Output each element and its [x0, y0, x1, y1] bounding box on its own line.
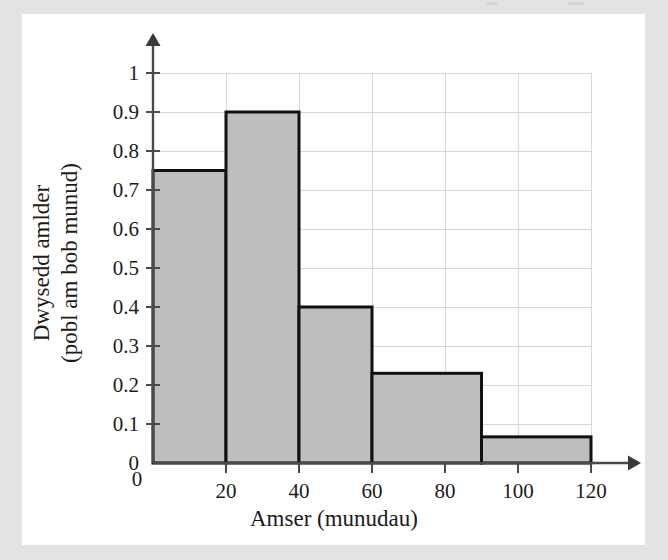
histogram-bar [226, 112, 299, 463]
y-tick-label: 1 [57, 63, 139, 84]
x-axis-arrow-icon [628, 456, 641, 471]
x-tick-label: 100 [502, 481, 534, 502]
x-tick-label: 60 [362, 481, 383, 502]
histogram-bar [299, 307, 372, 463]
chart-canvas [0, 0, 668, 560]
x-tick-label: 40 [289, 481, 310, 502]
y-axis-title-line1: Dwysedd amlder [29, 185, 54, 342]
histogram-bar [153, 171, 226, 464]
x-axis-title: Amser (munudau) [0, 506, 668, 532]
y-tick-label: 0 [57, 453, 139, 474]
page-background: 00.10.20.30.40.50.60.70.80.91 0204060801… [0, 0, 668, 560]
y-tick-label: 0.1 [57, 414, 139, 435]
x-tick-label: 0 [132, 469, 143, 490]
y-axis-arrow-icon [146, 33, 161, 46]
histogram-chart: 00.10.20.30.40.50.60.70.80.91 0204060801… [0, 0, 668, 560]
histogram-bar [372, 373, 482, 463]
x-tick-label: 80 [435, 481, 456, 502]
x-tick-label: 20 [216, 481, 237, 502]
y-axis-title-line2: (pobl am bob munud) [56, 118, 84, 408]
x-tick-label: 120 [575, 481, 607, 502]
y-axis-title: Dwysedd amlder (pobl am bob munud) [28, 118, 84, 408]
histogram-bar [482, 437, 592, 463]
